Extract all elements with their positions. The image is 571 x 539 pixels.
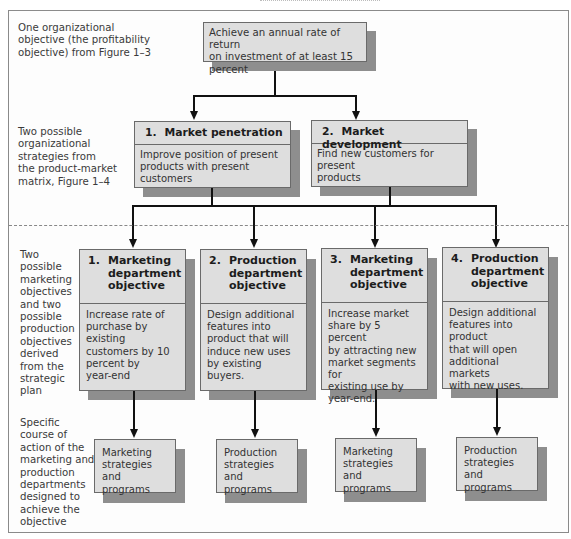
program-line: programs [224, 484, 290, 496]
label-line: objective [20, 516, 95, 528]
arrow-down-icon [129, 239, 137, 248]
label-line: the product-market [18, 163, 128, 175]
program-box-marketing-3: Marketing strategies and programs [335, 438, 417, 492]
program-box-production-4: Production strategies and programs [456, 437, 538, 491]
label-line: matrix, Figure 1–4 [18, 176, 128, 188]
objective-line: market segments for [328, 357, 421, 381]
connector-l1-down [274, 71, 276, 96]
objective-number: 4. [451, 253, 471, 266]
label-line: production [20, 467, 95, 479]
objective-line: Design additional [207, 309, 300, 321]
label-line: departments [20, 479, 95, 491]
program-box-production-2: Production strategies and programs [216, 439, 298, 493]
objective-box-production-4: 4. Production department objective Desig… [442, 247, 549, 389]
program-line: programs [102, 484, 168, 496]
label-line: plan [20, 385, 80, 397]
strategy-line: Improve position of present [140, 149, 285, 161]
strategy-line: Find new customers for present [317, 148, 462, 172]
program-line: strategies and [224, 459, 290, 483]
objective-line: purchase by existing [86, 321, 179, 345]
objective-line: that will open [449, 344, 542, 356]
strategy-line: products with present customers [140, 161, 285, 185]
objective-title-line: Marketing [350, 254, 423, 267]
connector-drop-c [374, 205, 376, 240]
level1-objective-box: Achieve an annual rate of return on inve… [203, 22, 367, 62]
arrow-down-icon [493, 427, 501, 436]
objective-line: by existing [207, 358, 300, 370]
objective-number: 2. [209, 255, 229, 268]
objective-line: Design additional [449, 307, 542, 319]
objective-line: buyers. [207, 370, 300, 382]
program-box-marketing-1: Marketing strategies and programs [94, 439, 176, 493]
label-line: from the [20, 361, 80, 373]
connector-drop-b [253, 205, 255, 240]
level1-line: Achieve an annual rate of return [209, 27, 361, 51]
label-line: One organizational [18, 22, 168, 34]
strategy-box-market-development: 2. Market development Find new customers… [311, 120, 468, 187]
label-line: production [20, 323, 80, 335]
objective-line: features into product [449, 319, 542, 343]
label-line: possible [20, 261, 80, 273]
label-line: strategies from [18, 151, 128, 163]
connector-l3-d [496, 389, 498, 427]
objective-line: share by 5 percent [328, 320, 421, 344]
connector-l2-right-down [389, 187, 391, 207]
program-line: strategies and [102, 459, 168, 483]
program-line: strategies and [464, 457, 530, 481]
connector-l3-c [375, 390, 377, 428]
arrow-down-icon [190, 111, 198, 120]
objective-line: percent by [86, 358, 179, 370]
objective-line: year-end [86, 370, 179, 382]
row-label-level3: Two possible marketing objectives and tw… [20, 249, 80, 398]
objective-line: Increase rate of [86, 309, 179, 321]
objective-box-marketing-3: 3. Marketing department objective Increa… [321, 248, 428, 390]
objective-line: induce new uses [207, 346, 300, 358]
objective-box-production-2: 2. Production department objective Desig… [200, 249, 307, 391]
arrow-down-icon [250, 239, 258, 248]
section-divider-dashed [9, 225, 569, 226]
objective-line: features into [207, 321, 300, 333]
connector-l3-b [254, 391, 256, 429]
connector-l1-horizontal [193, 95, 357, 97]
objective-title-line: objective [471, 278, 544, 291]
arrow-down-icon [371, 239, 379, 248]
objective-title-line: objective [350, 279, 423, 292]
label-line: derived [20, 348, 80, 360]
program-line: programs [464, 482, 530, 494]
program-line: Production [464, 445, 530, 457]
connector-l1-right-drop [355, 95, 357, 112]
row-label-level4: Specific course of action of the marketi… [20, 417, 95, 529]
row-label-level1: One organizational objective (the profit… [18, 22, 168, 59]
level1-line: on investment of at least 15 percent [209, 51, 361, 75]
connector-l1-left-drop [193, 95, 195, 112]
label-line: course of [20, 429, 95, 441]
program-line: Marketing [343, 446, 409, 458]
program-line: programs [343, 483, 409, 495]
objective-line: additional markets [449, 356, 542, 380]
objective-title-line: Production [229, 255, 302, 268]
objective-title-line: objective [229, 280, 302, 293]
label-line: marketing and [20, 454, 95, 466]
objective-line: by attracting new [328, 345, 421, 357]
program-line: strategies and [343, 458, 409, 482]
objective-number: 3. [330, 254, 350, 267]
label-line: Two possible [18, 126, 128, 138]
arrow-down-icon [352, 111, 360, 120]
label-line: objectives [20, 336, 80, 348]
strategy-title: Market penetration [164, 126, 282, 139]
label-line: Two [20, 249, 80, 261]
label-line: and two [20, 299, 80, 311]
arrow-down-icon [372, 428, 380, 437]
objective-title-line: objective [108, 280, 181, 293]
objective-line: product that will [207, 333, 300, 345]
objective-number: 1. [88, 255, 108, 268]
strategy-box-market-penetration: 1. Market penetration Improve position o… [134, 121, 291, 188]
strategy-number: 1. [145, 126, 157, 139]
page-top-cutoff [260, 0, 380, 5]
label-line: objectives [20, 286, 80, 298]
label-line: objective (the profitability [18, 34, 168, 46]
label-line: Specific [20, 417, 95, 429]
connector-l2-horizontal [132, 205, 497, 207]
label-line: marketing [20, 274, 80, 286]
objective-box-marketing-1: 1. Marketing department objective Increa… [79, 249, 186, 391]
